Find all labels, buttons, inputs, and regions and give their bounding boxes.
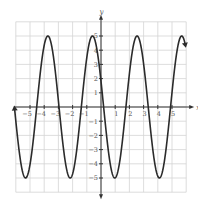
svg-text:−2: −2 [88, 132, 98, 140]
svg-text:4: 4 [157, 110, 161, 118]
svg-text:5: 5 [171, 110, 175, 118]
svg-text:−5: −5 [88, 174, 98, 182]
y-axis-label: y [99, 8, 105, 16]
svg-text:−5: −5 [22, 110, 32, 118]
svg-text:−4: −4 [88, 160, 98, 168]
svg-text:3: 3 [143, 110, 147, 118]
svg-text:−4: −4 [36, 110, 46, 118]
svg-text:−2: −2 [65, 110, 75, 118]
svg-text:2: 2 [94, 75, 98, 83]
svg-text:2: 2 [128, 110, 132, 118]
x-axis-label: x [196, 104, 198, 112]
svg-text:−3: −3 [88, 146, 98, 154]
sine-graph: −5−4−3−2−11234554321−1−2−3−4−5 x y [0, 0, 198, 204]
svg-text:1: 1 [114, 110, 118, 118]
svg-text:1: 1 [94, 89, 98, 97]
svg-text:3: 3 [94, 61, 98, 69]
svg-text:−1: −1 [88, 118, 98, 126]
